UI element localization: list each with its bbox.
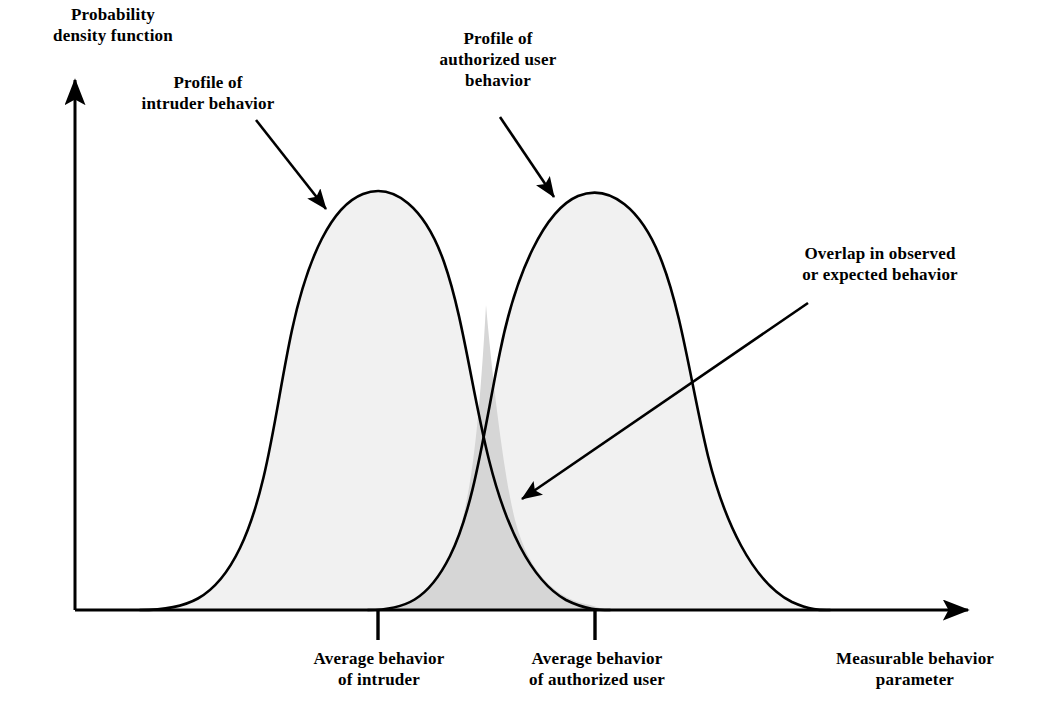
annotation-label-authorized-user-profile: Profile of authorized user behavior — [398, 28, 598, 91]
annotation-label-average-intruder: Average behavior of intruder — [268, 648, 490, 690]
annotation-label-overlap-region: Overlap in observed or expected behavior — [755, 243, 1005, 285]
pdf-behavior-figure: Probability density function Profile of … — [0, 0, 1040, 714]
y-axis-label: Probability density function — [8, 4, 218, 46]
annotation-label-average-authorized-user: Average behavior of authorized user — [483, 648, 711, 690]
arrow-authorized-user-profile — [500, 117, 554, 197]
x-axis-label: Measurable behavior parameter — [800, 648, 1030, 690]
arrow-intruder-profile — [256, 120, 326, 209]
annotation-label-intruder-profile: Profile of intruder behavior — [98, 72, 318, 114]
